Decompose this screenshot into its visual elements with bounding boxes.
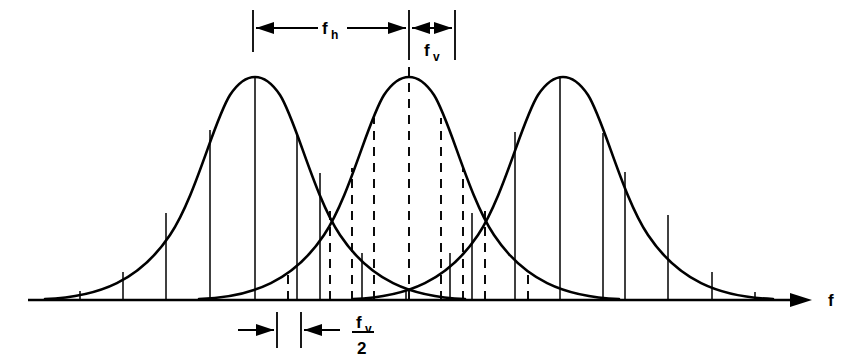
fh-label: f [322, 19, 328, 38]
fvhalf-arrowhead-left [256, 324, 274, 336]
spectrum-diagram: f h f v f v 2 f [0, 0, 854, 363]
fv-subscript: v [433, 50, 440, 64]
fv-arrowhead-left [412, 22, 430, 34]
solid-spectral-lines [80, 77, 755, 300]
fh-arrowhead-left [256, 22, 274, 34]
fv-half-subscript: v [365, 322, 372, 336]
lobe-3-curve [353, 77, 773, 299]
axis-arrowhead [790, 293, 812, 307]
fv-arrowhead-right [434, 22, 452, 34]
fh-arrowhead-right [388, 22, 406, 34]
dashed-spectral-lines [288, 60, 528, 300]
fvhalf-arrowhead-right [304, 324, 322, 336]
fv-label: f [424, 41, 430, 60]
fv-half-label: f [356, 313, 362, 332]
fv-half-denominator: 2 [357, 339, 366, 358]
fh-subscript: h [331, 28, 338, 42]
frequency-axis [28, 293, 812, 307]
axis-label-f: f [828, 291, 834, 310]
figure-canvas: f h f v f v 2 f [0, 0, 854, 363]
bottom-dimension-group [238, 312, 374, 348]
